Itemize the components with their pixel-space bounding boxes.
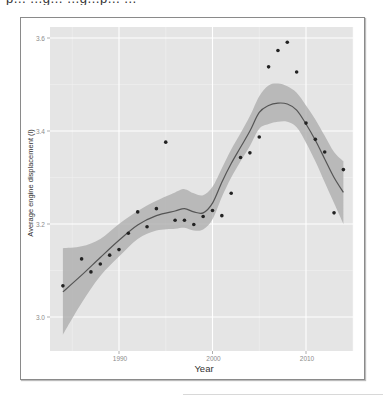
x-axis-title: Year [194, 363, 213, 374]
x-tick-label: 1990 [113, 355, 128, 362]
data-point [295, 70, 299, 74]
y-tick-label: 3.0 [36, 314, 45, 321]
x-axis-ticks: 199020002010 [113, 351, 315, 362]
y-tick-label: 3.2 [36, 221, 45, 228]
data-point [239, 156, 243, 160]
data-point [61, 284, 65, 288]
data-point [145, 225, 149, 229]
y-tick-label: 3.4 [36, 128, 45, 135]
data-point [136, 210, 140, 214]
x-tick-label: 2000 [206, 355, 221, 362]
x-tick-label: 2010 [300, 355, 315, 362]
data-point [80, 257, 84, 261]
data-point [229, 192, 233, 196]
y-axis-title: Average engine displacement (l) [26, 129, 35, 237]
data-point [108, 253, 112, 257]
y-axis-ticks: 3.03.23.43.6 [36, 35, 50, 321]
data-point [117, 248, 121, 252]
data-point [183, 218, 187, 222]
scatter-plot-with-smooth: 3.03.23.43.6 199020002010 Year Average e… [0, 0, 383, 396]
data-point [89, 270, 93, 274]
data-point [99, 262, 103, 266]
y-tick-label: 3.6 [36, 35, 45, 42]
data-point [267, 65, 271, 69]
data-point [286, 40, 290, 44]
data-point [201, 215, 205, 219]
data-point [220, 214, 224, 218]
data-point [304, 121, 308, 125]
data-point [332, 211, 336, 215]
data-point [211, 209, 215, 213]
plot-panel [50, 27, 353, 351]
data-point [276, 49, 280, 53]
divider-line [183, 394, 383, 395]
data-point [342, 168, 346, 172]
data-point [323, 150, 327, 154]
data-point [257, 135, 261, 139]
data-point [248, 151, 252, 155]
data-point [314, 138, 318, 142]
data-point [127, 232, 131, 236]
data-point [192, 223, 196, 227]
data-point [173, 218, 177, 222]
data-point [155, 207, 159, 211]
data-point [164, 140, 168, 144]
